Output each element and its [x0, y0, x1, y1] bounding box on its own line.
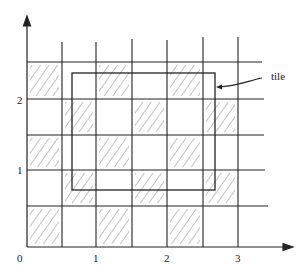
y-label-1: 1 — [17, 164, 23, 176]
x-label-1: 1 — [93, 252, 99, 264]
axes — [24, 16, 294, 251]
shaded-cell — [99, 138, 129, 167]
shaded-cell — [206, 173, 235, 203]
shaded-cell — [206, 102, 235, 132]
shaded-cell — [99, 209, 129, 244]
x-label-3: 3 — [235, 252, 241, 264]
shaded-cell — [65, 173, 93, 203]
shaded-cell — [30, 65, 59, 96]
y-label-2: 2 — [17, 94, 23, 106]
x-axis-arrow-icon — [283, 244, 293, 251]
shaded-cell — [30, 138, 59, 167]
checkerboard-diagram: tile 0 1 2 3 1 2 — [0, 0, 306, 274]
x-label-0: 0 — [17, 252, 23, 264]
shaded-cell — [99, 65, 129, 96]
shaded-cell — [170, 209, 200, 244]
arrowhead-icon — [216, 85, 222, 90]
y-axis-arrow-icon — [24, 16, 31, 26]
grid-lines — [27, 37, 268, 247]
x-label-2: 2 — [164, 252, 170, 264]
shaded-cell — [65, 102, 93, 132]
shaded-cell — [135, 173, 164, 203]
shaded-cell — [135, 102, 164, 132]
shaded-cell — [170, 138, 200, 167]
shaded-cell — [30, 209, 59, 244]
shaded-cell — [170, 65, 200, 96]
tile-label: tile — [271, 70, 285, 82]
tile-pointer-arrow — [219, 78, 262, 87]
